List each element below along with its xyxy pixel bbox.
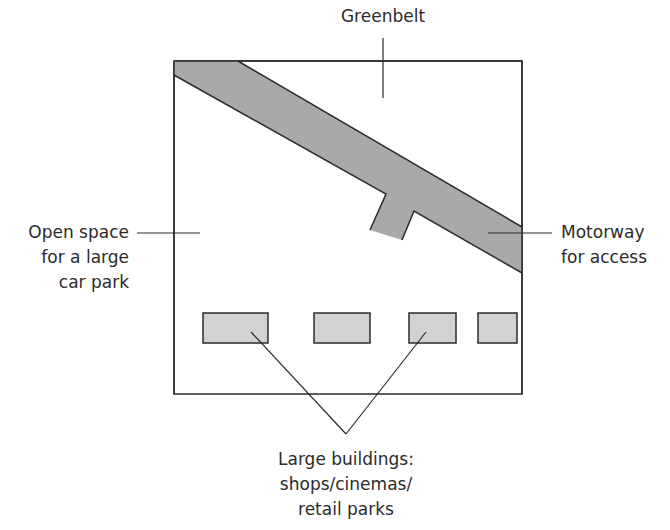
greenbelt-label: Greenbelt: [333, 4, 433, 29]
buildings-label-line: retail parks: [246, 497, 446, 522]
building: [478, 313, 517, 343]
building: [314, 313, 370, 343]
greenbelt-label-line: Greenbelt: [333, 4, 433, 29]
buildings-label-line: Large buildings:: [246, 447, 446, 472]
motorway-label-line: Motorway: [561, 220, 647, 245]
buildings-label: Large buildings: shops/cinemas/ retail p…: [246, 447, 446, 522]
open-space-label-line: car park: [0, 270, 129, 295]
building: [203, 313, 268, 343]
motorway-label-line: for access: [561, 245, 647, 270]
motorway-label: Motorway for access: [561, 220, 647, 270]
open-space-label-line: Open space: [0, 220, 129, 245]
building: [409, 313, 456, 343]
open-space-label: Open space for a large car park: [0, 220, 129, 295]
open-space-label-line: for a large: [0, 245, 129, 270]
buildings-label-line: shops/cinemas/: [246, 472, 446, 497]
